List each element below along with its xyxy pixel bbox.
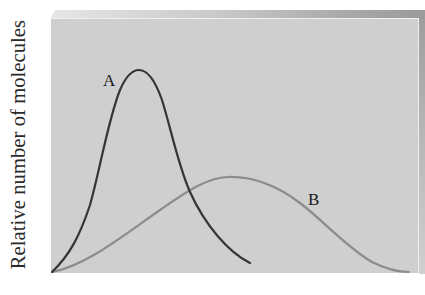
curve-a-label: A [103, 71, 116, 90]
chart-svg: A B [0, 0, 425, 295]
curve-b [52, 177, 409, 272]
curve-a [52, 70, 250, 272]
curve-b-label: B [308, 190, 319, 209]
